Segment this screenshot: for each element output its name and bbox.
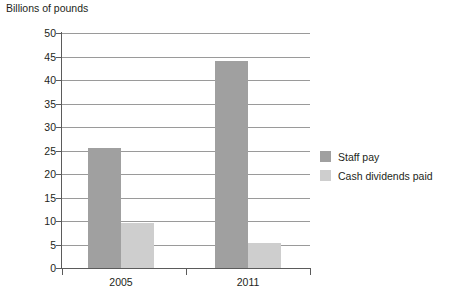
legend-item-label: Staff pay: [338, 151, 379, 163]
y-axis-tick-label: 20: [26, 169, 56, 179]
legend-swatch-icon: [320, 151, 331, 162]
gridline: [62, 33, 310, 34]
y-axis-tick-label: 25: [26, 146, 56, 156]
legend-swatch-icon: [320, 170, 331, 181]
y-axis-tick-mark: [56, 80, 61, 81]
bar: [215, 61, 248, 268]
y-axis-tick-label: 15: [26, 193, 56, 203]
y-axis-tick-label: 5: [26, 240, 56, 250]
gridline: [62, 104, 310, 105]
gridline: [62, 127, 310, 128]
bar: [248, 243, 281, 268]
y-axis-tick-label: 50: [26, 28, 56, 38]
y-axis-tick-mark: [56, 33, 61, 34]
y-axis-tick-mark: [56, 127, 61, 128]
y-axis-labels: 50454035302520151050: [16, 0, 56, 299]
chart-legend: Staff payCash dividends paid: [320, 148, 433, 186]
y-axis-tick-mark: [56, 245, 61, 246]
y-axis-tick-label: 10: [26, 216, 56, 226]
y-axis-tick-mark: [56, 198, 61, 199]
y-axis-tick-mark: [56, 57, 61, 58]
y-axis-tick-label: 35: [26, 99, 56, 109]
y-axis-tick-mark: [56, 104, 61, 105]
legend-item-label: Cash dividends paid: [338, 170, 433, 182]
plot-area: [62, 33, 310, 268]
y-axis-tick-label: 40: [26, 75, 56, 85]
y-axis-tick-mark: [56, 151, 61, 152]
gridline: [62, 80, 310, 81]
legend-item: Staff pay: [320, 148, 433, 165]
y-axis-tick-mark: [56, 174, 61, 175]
x-axis-category-label: 2011: [218, 276, 278, 288]
bar: [121, 223, 154, 268]
legend-item: Cash dividends paid: [320, 167, 433, 184]
y-axis-tick-label: 45: [26, 52, 56, 62]
x-axis-category-label: 2005: [91, 276, 151, 288]
x-axis-tick-mark: [310, 269, 311, 275]
y-axis-tick-label: 30: [26, 122, 56, 132]
bar: [88, 148, 121, 268]
x-axis-tick-mark: [186, 269, 187, 275]
y-axis-tick-mark: [56, 268, 61, 269]
y-axis-tick-label: 0: [26, 263, 56, 273]
x-axis-tick-mark: [62, 269, 63, 275]
y-axis-tick-mark: [56, 221, 61, 222]
gridline: [62, 57, 310, 58]
